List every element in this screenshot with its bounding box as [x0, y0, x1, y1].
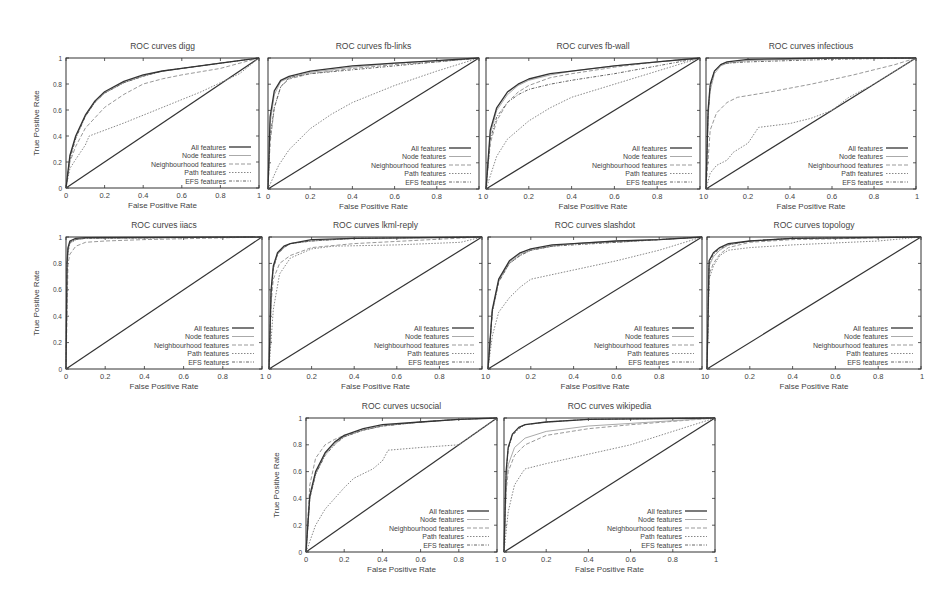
x-axis-label: False Positive Rate [561, 382, 630, 391]
y-tick-label: 0.4 [53, 313, 62, 320]
x-tick-label: 0 [266, 192, 270, 201]
x-tick-label: 0.8 [654, 372, 664, 381]
legend-label: EFS features [842, 179, 883, 186]
legend-label: Node features [638, 516, 682, 523]
chart-title: ROC curves slashdot [555, 220, 636, 230]
x-tick-label: 0.8 [215, 191, 225, 200]
x-tick-label: 0.2 [524, 192, 534, 201]
x-tick-label: 0 [484, 192, 488, 201]
y-tick-label: 0.2 [293, 522, 302, 529]
chart-title: ROC curves fb-links [336, 41, 412, 51]
x-axis-label: False Positive Rate [128, 201, 197, 210]
x-tick-label: 1 [478, 192, 482, 201]
x-tick-label: 0.6 [625, 555, 635, 564]
legend-label: Node features [185, 333, 229, 340]
roc-figure: ROC curves digg00.20.40.60.8100.20.40.60… [0, 0, 948, 601]
chart-panel-infectious: ROC curves infectious00.20.40.60.81False… [704, 41, 919, 211]
x-axis-label: False Positive Rate [339, 202, 408, 211]
x-axis-label: False Positive Rate [559, 202, 628, 211]
x-tick-label: 0 [486, 372, 490, 381]
legend-label: Path features [404, 170, 446, 177]
y-tick-label: 0.8 [293, 441, 302, 448]
x-tick-label: 0.8 [434, 372, 444, 381]
chart-title: ROC curves fb-wall [556, 41, 629, 51]
x-tick-label: 0.8 [652, 192, 662, 201]
legend-label: Neighbourhood features [813, 342, 889, 350]
y-tick-label: 1 [298, 415, 302, 422]
x-tick-label: 0.2 [743, 192, 753, 201]
chart-panel-wikipedia: ROC curves wikipedia00.20.40.60.81False … [502, 401, 718, 574]
legend-label: All features [632, 145, 668, 152]
x-tick-label: 0.4 [566, 192, 576, 201]
x-tick-label: 0.4 [349, 372, 359, 381]
x-tick-label: 0.6 [178, 372, 188, 381]
chart-panel-fb-wall: ROC curves fb-wall00.20.40.60.81False Po… [484, 41, 703, 211]
legend-label: Neighbourhood features [389, 525, 465, 533]
x-tick-label: 0.8 [873, 372, 883, 381]
x-tick-label: 0 [705, 372, 709, 381]
x-axis-label: False Positive Rate [777, 202, 846, 211]
chart-panel-digg: ROC curves digg00.20.40.60.8100.20.40.60… [32, 41, 261, 210]
legend-label: Path features [640, 533, 682, 540]
chart-panel-fb-links: ROC curves fb-links00.20.40.60.81False P… [266, 41, 482, 211]
legend-label: Node features [844, 333, 888, 340]
y-tick-label: 0.4 [53, 133, 62, 140]
legend-label: Node features [405, 333, 449, 340]
legend-label: Neighbourhood features [151, 161, 227, 169]
chart-title: ROC curves lkml-reply [333, 220, 419, 230]
x-tick-label: 0.6 [177, 191, 187, 200]
x-axis-label: False Positive Rate [575, 565, 644, 574]
chart-title: ROC curves iiacs [131, 220, 197, 230]
x-tick-label: 0.6 [611, 372, 621, 381]
chart-title: ROC curves digg [130, 41, 195, 51]
y-tick-label: 0.6 [293, 468, 302, 475]
x-tick-label: 0 [704, 192, 708, 201]
x-tick-label: 1 [260, 372, 264, 381]
x-tick-label: 0.8 [218, 372, 228, 381]
legend-label: All features [647, 508, 683, 515]
chart-panel-topology: ROC curves topology00.20.40.60.81False P… [705, 220, 924, 391]
x-tick-label: 0.2 [526, 372, 536, 381]
y-tick-label: 0.2 [53, 159, 62, 166]
x-tick-label: 0.6 [415, 555, 425, 564]
y-tick-label: 0.6 [53, 107, 62, 114]
legend-label: Path features [841, 170, 883, 177]
chart-title: ROC curves wikipedia [568, 401, 652, 411]
y-tick-label: 0 [298, 549, 302, 556]
legend-label: Neighbourhood features [607, 525, 683, 533]
legend-label: All features [634, 325, 670, 332]
x-tick-label: 1 [915, 192, 919, 201]
legend-label: All features [194, 325, 230, 332]
x-tick-label: 0 [267, 372, 271, 381]
legend-label: Neighbourhood features [154, 342, 230, 350]
legend-label: EFS features [423, 542, 464, 549]
legend-label: All features [414, 325, 450, 332]
x-tick-label: 1 [481, 372, 485, 381]
x-tick-label: 0.6 [827, 192, 837, 201]
y-axis-label: True Positive Rate [32, 90, 41, 156]
legend-label: Path features [184, 169, 226, 176]
x-axis-label: False Positive Rate [780, 382, 849, 391]
x-tick-label: 1 [495, 555, 499, 564]
y-tick-label: 1 [58, 55, 62, 62]
y-tick-label: 1 [58, 234, 62, 241]
x-tick-label: 0.4 [377, 555, 387, 564]
legend-label: EFS features [185, 178, 226, 185]
x-tick-label: 0.2 [99, 191, 109, 200]
chart-title: ROC curves infectious [769, 41, 854, 51]
x-tick-label: 0.8 [869, 192, 879, 201]
legend-label: EFS features [405, 179, 446, 186]
chart-panel-iiacs: ROC curves iiacs00.20.40.60.8100.20.40.6… [32, 220, 264, 391]
x-tick-label: 0.4 [138, 191, 148, 200]
x-tick-label: 0.8 [668, 555, 678, 564]
legend-label: Path features [407, 350, 449, 357]
y-tick-label: 0.8 [53, 260, 62, 267]
x-tick-label: 0.6 [609, 192, 619, 201]
y-tick-label: 0 [58, 185, 62, 192]
x-tick-label: 0.4 [583, 555, 593, 564]
chart-panel-lkml-reply: ROC curves lkml-reply00.20.40.60.81False… [267, 220, 485, 391]
x-tick-label: 0 [64, 372, 68, 381]
x-tick-label: 0.2 [541, 555, 551, 564]
legend-label: Path features [187, 350, 229, 357]
legend-label: All features [411, 145, 447, 152]
